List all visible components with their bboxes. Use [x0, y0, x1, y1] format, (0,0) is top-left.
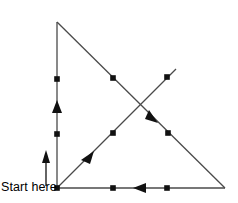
node-dot-bottom-right — [164, 185, 170, 191]
segment-ascending-ray — [57, 69, 176, 188]
node-dot-vertical-lower — [54, 131, 60, 137]
node-dot-vertical-upper — [54, 76, 60, 82]
direction-arrow-left-bottom — [133, 183, 146, 193]
direction-arrow-up-vertical — [52, 100, 62, 113]
node-dot-hypotenuse-lower — [165, 130, 171, 136]
node-dot-bottom-left — [110, 185, 116, 191]
node-dot-hypotenuse-upper — [110, 75, 116, 81]
direction-arrow-downright-hypotenuse — [145, 110, 158, 123]
start-here-label: Start here — [1, 180, 57, 195]
start-pointer-arrowhead — [42, 150, 50, 163]
node-dot-ray-lower — [110, 130, 116, 136]
path-diagram — [0, 0, 238, 203]
diagram-screenshot: Start here — [0, 0, 238, 203]
node-dot-ray-upper — [164, 74, 170, 80]
